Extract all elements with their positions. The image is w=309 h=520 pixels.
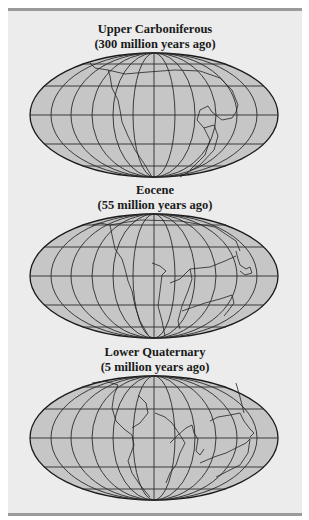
era-name: Eocene <box>8 183 302 198</box>
world-map-eocene <box>0 211 309 341</box>
world-map-carboniferous <box>0 50 309 180</box>
map-title-quaternary: Lower Quaternary (5 million years ago) <box>8 345 302 375</box>
top-frame-bar <box>8 8 302 11</box>
bottom-frame-bar <box>8 513 302 516</box>
map-title-carboniferous: Upper Carboniferous (300 million years a… <box>8 22 302 52</box>
world-map-quaternary <box>0 373 309 503</box>
era-name: Lower Quaternary <box>8 345 302 360</box>
map-title-eocene: Eocene (55 million years ago) <box>8 183 302 213</box>
era-name: Upper Carboniferous <box>8 22 302 37</box>
